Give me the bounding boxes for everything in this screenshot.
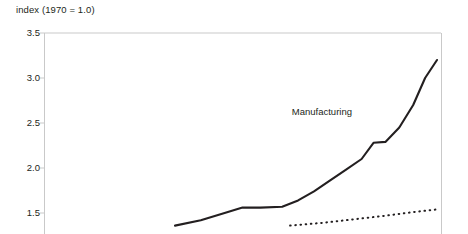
chart-container: index (1970 = 1.0) 3.53.02.52.01.5 Manuf… (0, 0, 468, 234)
y-axis-tick-marks (40, 33, 44, 213)
series-annotation-manufacturing: Manufacturing (292, 106, 352, 117)
series-line-dotted (290, 209, 437, 225)
axis-lines (40, 33, 442, 234)
data-series-group (175, 60, 437, 226)
plot-area (0, 0, 468, 234)
series-line-manufacturing (175, 60, 437, 226)
